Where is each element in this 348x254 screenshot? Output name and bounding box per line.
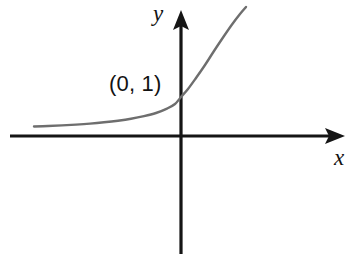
exponential-function-graph: y x (0, 1)	[0, 0, 348, 254]
exponential-curve	[34, 7, 246, 127]
x-axis-label: x	[334, 146, 344, 169]
y-intercept-label: (0, 1)	[109, 72, 162, 96]
y-axis-label: y	[153, 2, 163, 25]
graph-canvas	[0, 0, 348, 254]
